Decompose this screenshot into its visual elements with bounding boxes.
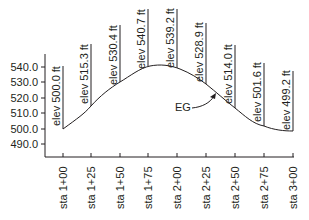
station-label: sta 1+50 — [114, 166, 126, 209]
elevation-label: elev 500.0 ft — [50, 66, 62, 126]
eg-leader-line — [192, 96, 214, 108]
elevation-label: elev 530.4 ft — [107, 25, 119, 85]
eg-arrowhead-icon — [210, 93, 216, 99]
elevation-label: elev 528.9 ft — [193, 22, 205, 82]
station-label: sta 3+00 — [287, 166, 299, 209]
y-tick-labels: 540.0 530.0 520.0 510.0 500.0 490.0 — [10, 61, 38, 150]
y-ticks — [41, 67, 45, 144]
y-tick-label: 540.0 — [10, 61, 38, 73]
station-label: sta 2+00 — [171, 166, 183, 209]
station-labels: sta 1+00 sta 1+25 sta 1+50 sta 1+75 sta … — [57, 166, 299, 209]
x-ticks — [63, 153, 293, 157]
station-label: sta 1+00 — [57, 166, 69, 209]
y-tick-label: 530.0 — [10, 76, 38, 88]
elevation-labels: elev 500.0 ft elev 515.3 ft elev 530.4 f… — [50, 8, 292, 130]
station-label: sta 1+25 — [85, 166, 97, 209]
elevation-label: elev 540.7 ft — [135, 9, 147, 69]
elevation-label: elev 501.6 ft — [251, 62, 263, 122]
elevation-label: elev 514.0 ft — [222, 44, 234, 104]
eg-label: EG — [175, 101, 191, 113]
y-tick-label: 520.0 — [10, 92, 38, 104]
station-label: sta 2+25 — [200, 166, 212, 209]
profile-diagram: 540.0 530.0 520.0 510.0 500.0 490.0 sta … — [0, 0, 309, 220]
y-tick-label: 490.0 — [10, 138, 38, 150]
elevation-label: elev 515.3 ft — [78, 44, 90, 104]
y-tick-label: 510.0 — [10, 107, 38, 119]
station-label: sta 1+75 — [142, 166, 154, 209]
station-label: sta 2+75 — [258, 166, 270, 209]
elevation-label: elev 499.2 ft — [280, 70, 292, 130]
elevation-label: elev 539.2 ft — [164, 8, 176, 68]
station-label: sta 2+50 — [229, 166, 241, 209]
y-tick-label: 500.0 — [10, 123, 38, 135]
